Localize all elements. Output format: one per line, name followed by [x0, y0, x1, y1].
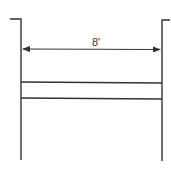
diagram-drawing: [0, 0, 171, 171]
left-wall: [10, 19, 21, 160]
rail-top-line: [21, 82, 162, 83]
dimension-line: [23, 49, 160, 50]
rail-bottom-line: [21, 98, 162, 99]
right-wall: [162, 20, 170, 161]
dimension-label: 8': [92, 37, 100, 48]
diagram-canvas: 8': [0, 0, 171, 171]
